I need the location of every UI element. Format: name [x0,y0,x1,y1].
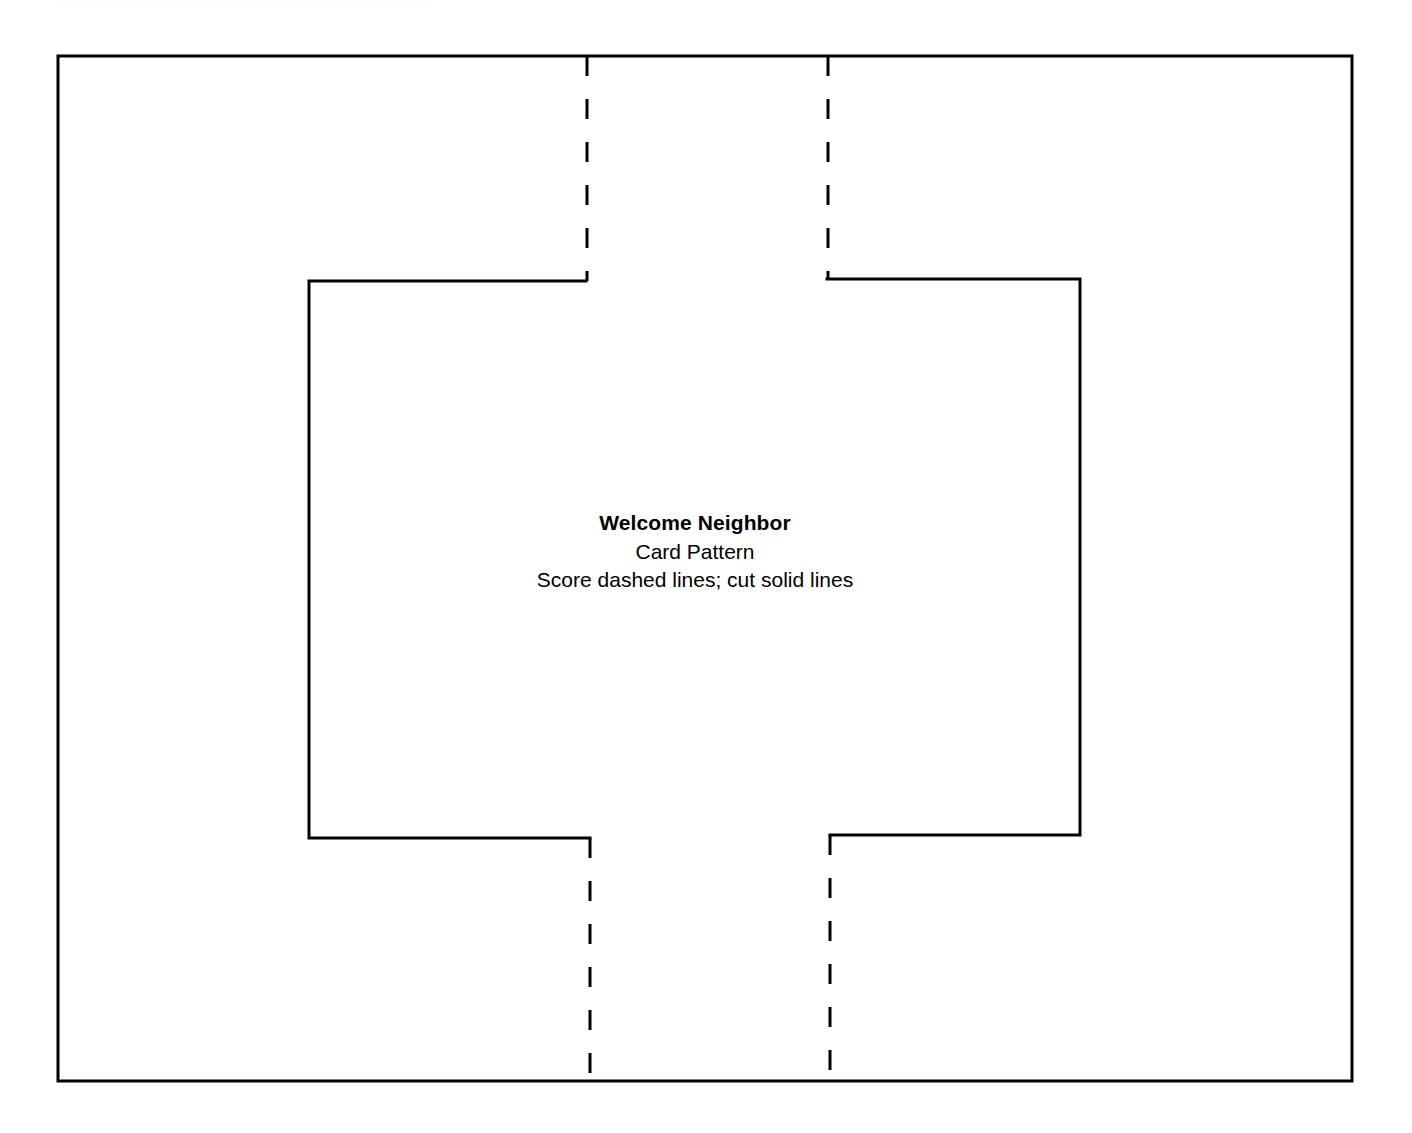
card-label-block: Welcome Neighbor Card Pattern Score dash… [309,512,1081,590]
card-subtitle: Card Pattern [309,541,1081,562]
card-instructions: Score dashed lines; cut solid lines [309,569,1081,590]
card-title: Welcome Neighbor [309,512,1081,533]
card-pattern-canvas: Welcome Neighbor Card Pattern Score dash… [0,0,1412,1133]
